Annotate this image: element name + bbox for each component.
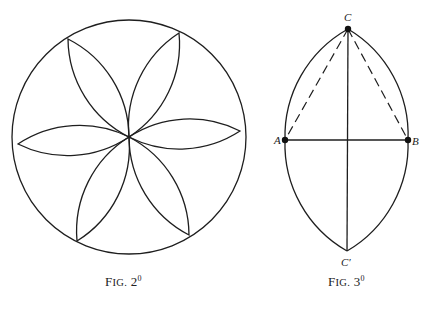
fig2-petal-2 bbox=[128, 33, 179, 137]
fig3-caption: FIG. 30 bbox=[328, 274, 365, 290]
fig2-caption-smallcaps: IG. bbox=[113, 277, 128, 288]
fig2-caption: FIG. 20 bbox=[105, 274, 142, 290]
fig2-caption-number: 2 bbox=[131, 274, 138, 289]
fig2-petal-6 bbox=[129, 137, 189, 235]
fig2-petal-4 bbox=[18, 125, 129, 155]
figures-canvas: C A B C′ bbox=[0, 0, 434, 312]
fig3-caption-smallcaps: IG. bbox=[336, 277, 351, 288]
fig3-caption-prefix: F bbox=[328, 274, 336, 289]
fig3-dashed-ca bbox=[285, 29, 348, 140]
fig3-point-a bbox=[282, 137, 288, 143]
fig3-caption-number: 3 bbox=[354, 274, 361, 289]
fig3-caption-sup: 0 bbox=[361, 274, 365, 283]
fig2-caption-prefix: F bbox=[105, 274, 113, 289]
fig3-label-c: C bbox=[344, 11, 352, 23]
fig2-caption-sup: 0 bbox=[138, 274, 142, 283]
fig3-label-cprime: C′ bbox=[341, 256, 351, 268]
fig3-label-b: B bbox=[412, 135, 419, 147]
fig3-arc-cprime-b bbox=[347, 140, 408, 251]
fig3-vesica: C A B C′ bbox=[273, 11, 419, 268]
fig3-point-c bbox=[345, 26, 351, 32]
fig2-petals bbox=[18, 33, 240, 241]
fig3-label-a: A bbox=[273, 134, 281, 146]
fig3-line-c-cprime bbox=[347, 29, 348, 251]
fig3-arc-a-cprime bbox=[285, 140, 347, 251]
fig2-petal-5 bbox=[77, 137, 130, 241]
fig2-rosette bbox=[12, 20, 246, 254]
fig3-dashed-cb bbox=[348, 29, 408, 140]
fig3-point-b bbox=[405, 137, 411, 143]
fig2-petal-3 bbox=[68, 39, 129, 137]
